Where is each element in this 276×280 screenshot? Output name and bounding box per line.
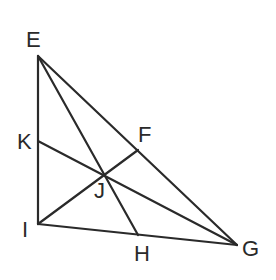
- label-K: K: [17, 131, 32, 153]
- label-I: I: [22, 219, 28, 241]
- segment-KG: [38, 141, 237, 245]
- label-J: J: [94, 180, 105, 202]
- label-G: G: [242, 238, 259, 260]
- label-E: E: [26, 29, 41, 51]
- segment-EH: [38, 56, 138, 235]
- segment-IF: [38, 150, 138, 224]
- label-F: F: [138, 124, 151, 146]
- label-H: H: [134, 243, 150, 265]
- triangle-diagram: E F K J I H G: [0, 0, 276, 280]
